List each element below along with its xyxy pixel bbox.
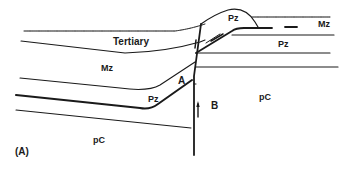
label-tertiary: Tertiary <box>113 37 149 47</box>
label-block-b: B <box>211 101 218 111</box>
label-mz-left: Mz <box>101 64 113 73</box>
fault-tick <box>195 40 196 48</box>
thrust-fault <box>196 28 272 53</box>
ground-surface-left <box>24 24 205 31</box>
label-pz-thrust: Pz <box>228 14 239 23</box>
label-pz-left: Pz <box>148 95 159 104</box>
label-block-a: A <box>178 76 185 86</box>
label-pc-left: pC <box>93 136 105 145</box>
lower-pc-line <box>16 110 191 128</box>
label-mz-right: Mz <box>318 20 330 29</box>
panel-label: (A) <box>15 147 29 157</box>
top-precambrian-contact <box>16 80 192 109</box>
slip-arrow-up-icon <box>196 101 199 107</box>
label-pz-right: Pz <box>278 40 289 49</box>
label-pc-right: pC <box>259 93 271 102</box>
